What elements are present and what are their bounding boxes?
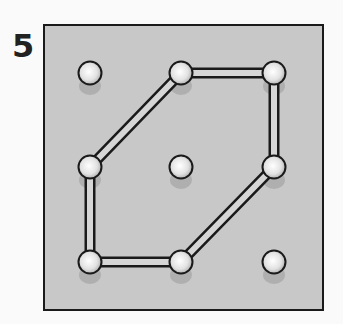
peg xyxy=(79,62,102,85)
peg xyxy=(79,251,102,274)
peg xyxy=(263,156,286,179)
geoboard xyxy=(0,0,343,324)
peg xyxy=(263,62,286,85)
peg xyxy=(79,156,102,179)
peg xyxy=(170,62,193,85)
peg xyxy=(263,251,286,274)
peg xyxy=(170,251,193,274)
peg xyxy=(170,156,193,179)
